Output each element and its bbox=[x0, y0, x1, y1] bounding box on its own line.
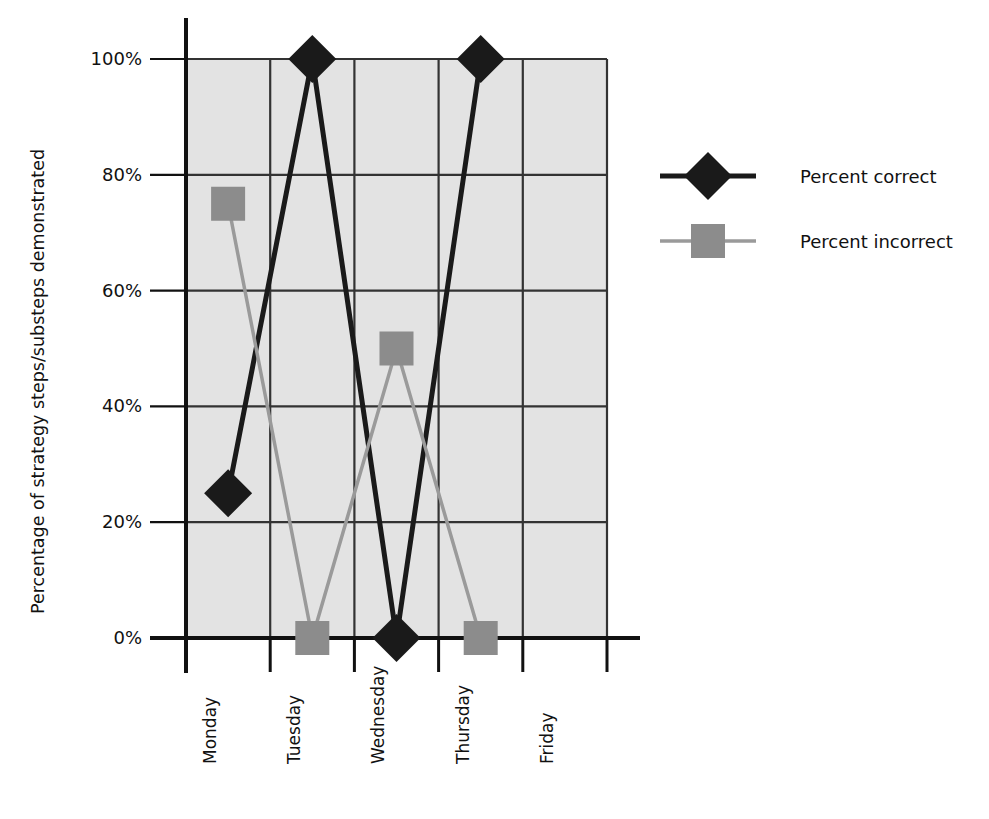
y-tick-label: 80% bbox=[102, 164, 142, 185]
x-category-label: Friday bbox=[537, 712, 557, 764]
x-category-label: Thursday bbox=[453, 685, 473, 765]
data-point-square bbox=[380, 332, 414, 366]
x-category-label: Tuesday bbox=[284, 695, 304, 765]
y-axis-title: Percentage of strategy steps/substeps de… bbox=[28, 149, 48, 614]
line-chart: 100%80%60%40%20%0% MondayTuesdayWednesda… bbox=[0, 0, 989, 819]
chart-figure: 100%80%60%40%20%0% MondayTuesdayWednesda… bbox=[0, 0, 989, 819]
y-tick-label: 20% bbox=[102, 511, 142, 532]
y-tick-label: 0% bbox=[113, 627, 142, 648]
legend-label: Percent incorrect bbox=[800, 231, 953, 252]
x-category-label: Monday bbox=[200, 697, 220, 764]
x-category-label: Wednesday bbox=[368, 666, 388, 764]
y-tick-label: 60% bbox=[102, 280, 142, 301]
y-tick-label: 100% bbox=[91, 48, 142, 69]
y-tick-label: 40% bbox=[102, 395, 142, 416]
legend-square-icon bbox=[691, 224, 725, 258]
data-point-square bbox=[295, 621, 329, 655]
data-point-square bbox=[464, 621, 498, 655]
data-point-square bbox=[211, 187, 245, 221]
legend-label: Percent correct bbox=[800, 166, 936, 187]
